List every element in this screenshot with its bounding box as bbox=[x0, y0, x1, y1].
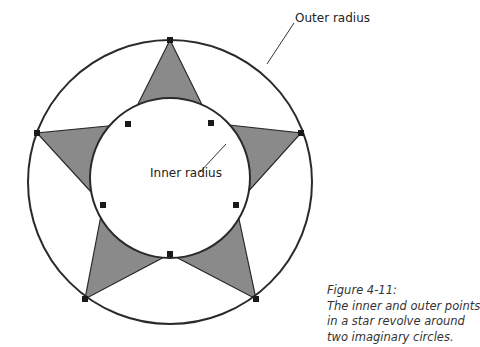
caption-line: The inner and outer points bbox=[327, 299, 480, 315]
figure-caption: Figure 4-11: The inner and outer points … bbox=[327, 283, 480, 345]
outer-radius-label: Outer radius bbox=[295, 11, 370, 25]
caption-line: two imaginary circles. bbox=[327, 330, 480, 346]
caption-line: in a star revolve around bbox=[327, 314, 480, 330]
inner-radius-label: Inner radius bbox=[150, 166, 222, 180]
outer-radius-leader bbox=[267, 23, 294, 64]
caption-title: Figure 4-11: bbox=[327, 283, 480, 299]
